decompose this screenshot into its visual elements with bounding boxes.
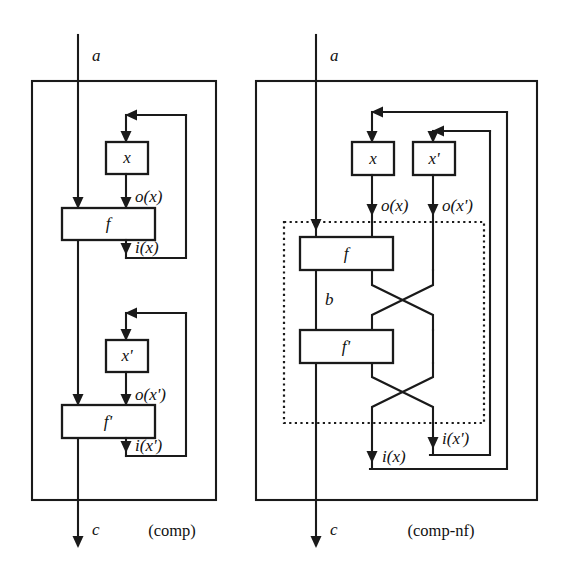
comp-box-xprime-label: x' [120, 346, 133, 365]
compnf-label-c: c [330, 520, 338, 539]
compnf-crossing-lower-left-to-right [372, 363, 433, 455]
diagram-canvas: x o(x) f i(x) x' o(x') [0, 0, 563, 573]
diagram-comp-nf: x x' o(x) o(x') f b f' [256, 35, 537, 548]
comp-arrowhead-ixprime [121, 441, 132, 453]
compnf-arrowhead-oxprime [428, 204, 439, 216]
compnf-label-a: a [330, 46, 339, 65]
compnf-wire-loop-return-xprime [430, 131, 490, 455]
comp-arrowhead-c [73, 536, 84, 548]
comp-wire-label-ixprime: i(x') [135, 436, 163, 455]
comp-box-fprime-label: f' [104, 412, 113, 431]
comp-wire-label-ix: i(x) [135, 238, 159, 257]
compnf-wire-label-ox: o(x) [381, 196, 409, 215]
comp-wire-label-oxprime: o(x') [135, 385, 166, 404]
compnf-arrowhead-ix [367, 451, 378, 463]
comp-label-a: a [92, 46, 101, 65]
compnf-arrowhead-a-into-f [311, 219, 322, 231]
comp-label-c: c [92, 520, 100, 539]
compnf-arrowhead-c [311, 536, 322, 548]
compnf-wire-label-ixprime: i(x') [442, 429, 470, 448]
compnf-caption: (comp-nf) [408, 521, 475, 540]
compnf-box-x-label: x [368, 149, 377, 168]
comp-caption: (comp) [148, 521, 196, 540]
compnf-box-fprime-label: f' [342, 337, 351, 356]
compnf-wire-label-ix: i(x) [382, 447, 406, 466]
comp-arrowhead-ix [121, 243, 132, 255]
compnf-crossing-upper-right-to-left [372, 270, 433, 330]
figure-container: x o(x) f i(x) x' o(x') [0, 0, 563, 573]
compnf-wire-label-oxprime: o(x') [442, 196, 473, 215]
comp-box-x-label: x [122, 148, 131, 167]
diagram-comp: x o(x) f i(x) x' o(x') [32, 35, 216, 548]
compnf-outer-frame [256, 81, 537, 500]
compnf-arrowhead-ixprime [428, 437, 439, 449]
compnf-label-b: b [325, 290, 334, 309]
comp-wire-label-ox: o(x) [135, 187, 163, 206]
compnf-arrowhead-ox [367, 204, 378, 216]
compnf-box-xprime-label: x' [427, 149, 440, 168]
